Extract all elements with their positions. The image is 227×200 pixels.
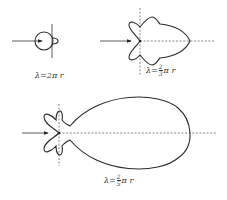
label-prefix: λ=2 bbox=[35, 71, 52, 80]
denominator: 3 bbox=[159, 71, 163, 77]
pattern-1 bbox=[12, 24, 58, 58]
label-suffix: π r bbox=[122, 176, 134, 185]
label-pattern-2: λ=23π r bbox=[146, 64, 175, 77]
pattern-3 bbox=[22, 97, 217, 169]
label-suffix: π r bbox=[52, 71, 64, 80]
label-prefix: λ= bbox=[146, 66, 158, 75]
denominator: 5 bbox=[117, 181, 121, 187]
fraction: 23 bbox=[159, 64, 163, 77]
label-pattern-1: λ=2π r bbox=[35, 71, 64, 80]
label-suffix: π r bbox=[164, 66, 176, 75]
label-prefix: λ= bbox=[104, 176, 116, 185]
label-pattern-3: λ=25π r bbox=[104, 174, 133, 187]
scattering-pattern-diagram bbox=[0, 0, 227, 200]
fraction: 25 bbox=[117, 174, 121, 187]
